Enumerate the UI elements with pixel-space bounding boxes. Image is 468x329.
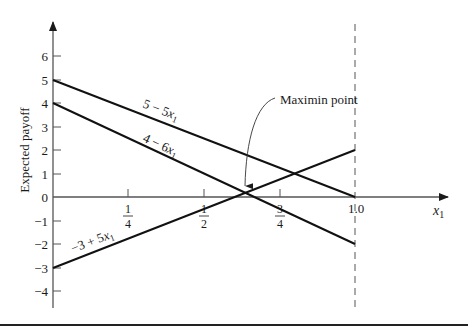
y-ticks (53, 56, 61, 291)
series-label-5-minus-5x1: 5 − 5x1 (140, 96, 181, 125)
y-tick-label: 1 (42, 167, 49, 182)
y-tick-label: −2 (34, 237, 48, 252)
fraction-denominator: 4 (125, 217, 131, 231)
y-tick-label: −3 (34, 261, 48, 276)
maximin-pointer-arrow (245, 98, 275, 186)
y-tick-label: 2 (42, 143, 49, 158)
x-axis-label: x1 (432, 203, 444, 220)
chart: 6 5 4 3 2 1 0 −1 −2 −3 −4 Expected payof… (0, 0, 468, 329)
y-axis-label: Expected payoff (17, 107, 32, 193)
fraction-denominator: 4 (277, 217, 283, 231)
y-tick-label: 4 (42, 96, 49, 111)
x-tick-half: 1 2 (199, 202, 209, 231)
y-tick-label: 5 (42, 73, 49, 88)
line-neg3-plus-5x1 (53, 150, 355, 268)
x-tick-quarter: 1 4 (123, 202, 133, 231)
y-tick-labels: 6 5 4 3 2 1 0 −1 −2 −3 −4 (34, 49, 48, 299)
y-tick-label: 0 (42, 190, 49, 205)
maximin-annotation: Maximin point (280, 92, 358, 107)
y-tick-label: −1 (34, 214, 48, 229)
y-tick-label: 3 (42, 120, 49, 135)
fraction-denominator: 2 (201, 217, 207, 231)
y-tick-label: 6 (42, 49, 49, 64)
series-label-4-minus-6x1: 4 − 6x1 (140, 130, 181, 161)
x-ticks (128, 189, 280, 197)
x-end-label: 1.0 (348, 201, 364, 216)
y-tick-label: −4 (34, 284, 48, 299)
fraction-numerator: 1 (125, 202, 131, 216)
